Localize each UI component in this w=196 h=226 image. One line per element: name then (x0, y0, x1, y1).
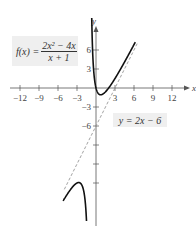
function-right-branch (91, 0, 135, 95)
function-left-branch (63, 183, 86, 221)
y-tick-label: −3 (81, 102, 91, 112)
x-tick-label: −6 (53, 93, 63, 103)
y-tick-label: 6 (87, 45, 92, 55)
function-label-lhs: f(x) = (16, 46, 39, 57)
x-tick-label: 12 (168, 93, 177, 103)
function-fraction: 2x² − 4x x + 1 (41, 40, 77, 63)
y-axis-arrow-icon (94, 26, 99, 32)
function-label: f(x) = 2x² − 4x x + 1 (12, 36, 78, 66)
curves (63, 0, 137, 221)
function-denominator: x + 1 (48, 52, 69, 63)
x-tick-label: 9 (151, 93, 156, 103)
asymptote-label: y = 2x − 6 (113, 113, 167, 127)
x-axis-label: x (191, 83, 196, 93)
x-tick-label: −9 (34, 93, 44, 103)
x-axis-arrow-icon (184, 86, 190, 91)
x-tick-label: 6 (132, 93, 137, 103)
function-numerator: 2x² − 4x (41, 40, 77, 52)
y-tick-label: 3 (87, 64, 92, 74)
x-tick-label: −12 (13, 93, 27, 103)
y-tick-label: −6 (81, 121, 91, 131)
x-tick-label: 3 (113, 93, 118, 103)
